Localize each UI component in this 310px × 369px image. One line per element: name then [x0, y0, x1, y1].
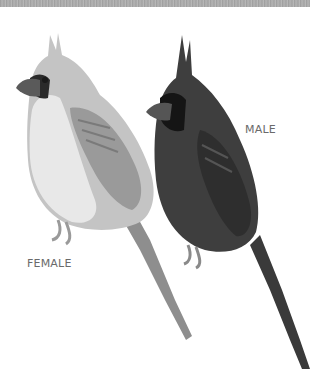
female-label: FEMALE — [27, 257, 72, 270]
cardinals-drawing — [0, 0, 310, 369]
male-label: MALE — [245, 123, 276, 136]
male-cardinal — [146, 35, 310, 369]
cardinal-illustration-figure: MALE FEMALE — [0, 0, 310, 369]
